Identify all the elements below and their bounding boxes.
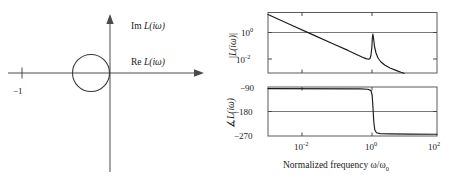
phase-ytick-label-90: −90 <box>240 83 255 93</box>
magnitude-plot-frame <box>268 13 437 74</box>
re-prefix: Re <box>131 57 144 67</box>
nyquist-plot: Im L(iω) Re L(iω) −1 <box>8 14 204 172</box>
figure-container: Im L(iω) Re L(iω) −1 100 10-2 |L(iω)| <box>0 0 453 182</box>
im-prefix: Im <box>131 21 144 31</box>
re-arg: (iω) <box>149 57 165 68</box>
imaginary-axis-label: Im L(iω) <box>131 21 165 32</box>
phase-ytick-label-180: −180 <box>234 107 253 117</box>
real-axis-label: Re L(iω) <box>131 57 165 68</box>
magnitude-axis-title: |L(iω)| <box>228 33 239 58</box>
magnitude-ytick-label-1e0: 100 <box>241 26 253 38</box>
figure-svg: Im L(iω) Re L(iω) −1 100 10-2 |L(iω)| <box>0 0 453 182</box>
xtick-label-1e0: 100 <box>365 140 377 152</box>
bode-phase-plot: −90 −180 −270 ∡L(iω) 10-2 100 102 Normal… <box>226 83 440 172</box>
frequency-axis-title: Normalized frequency ω/ω0 <box>283 160 389 172</box>
im-arg: (iω) <box>149 21 165 32</box>
magnitude-ytick-label-1e-2: 10-2 <box>236 53 250 65</box>
imaginary-axis-arrowhead <box>106 14 113 24</box>
bode-magnitude-plot: 100 10-2 |L(iω)| <box>228 13 437 74</box>
nyquist-real-axis <box>8 69 204 76</box>
xtick-label-1e2: 102 <box>428 140 440 152</box>
phase-axis-title: ∡L(iω) <box>226 98 237 128</box>
critical-point-label: −1 <box>13 86 23 96</box>
real-axis-arrowhead <box>194 69 204 76</box>
phase-ytick-label-270: −270 <box>234 131 253 141</box>
nyquist-imaginary-axis <box>106 14 113 172</box>
magnitude-curve <box>268 15 404 74</box>
xtick-label-1e-2: 10-2 <box>294 140 308 152</box>
